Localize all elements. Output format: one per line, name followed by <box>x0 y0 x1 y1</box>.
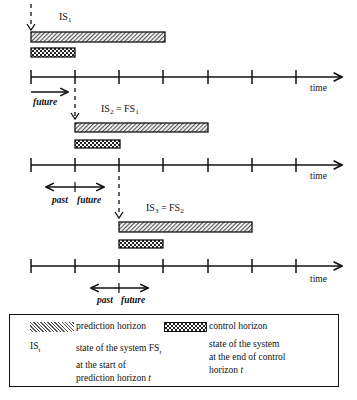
prediction-horizon-bar-1 <box>31 32 165 42</box>
state-label-1: IS1 <box>59 12 71 24</box>
down-arrow-icon <box>115 212 123 218</box>
step-3 <box>31 222 342 293</box>
time-label-1: time <box>310 84 327 94</box>
control-horizon-bar-2 <box>75 140 120 148</box>
future-label-3: future <box>121 296 145 306</box>
is-symbol: ISt <box>30 340 40 357</box>
fs-description: state of the system at the end of contro… <box>209 338 286 377</box>
past-label-2: past <box>52 196 68 206</box>
down-arrow-icon <box>27 24 35 30</box>
prediction-horizon-label: prediction horizon <box>76 320 146 333</box>
past-label-3: past <box>97 296 113 306</box>
state-label-3: IS3 = FS2 <box>146 203 184 215</box>
step-2 <box>31 123 342 192</box>
control-horizon-bar-1 <box>31 48 75 57</box>
legend-box: prediction horizon control horizon ISt s… <box>9 314 339 387</box>
prediction-horizon-bar-3 <box>119 222 252 232</box>
time-label-3: time <box>310 275 327 285</box>
future-label-1: future <box>33 98 57 108</box>
state-label-2: IS2 = FS1 <box>101 104 139 116</box>
control-horizon-label: control horizon <box>209 320 267 333</box>
prediction-horizon-swatch <box>30 322 74 332</box>
control-horizon-bar-3 <box>119 240 163 248</box>
prediction-horizon-bar-2 <box>75 123 208 132</box>
time-label-2: time <box>310 172 327 182</box>
control-horizon-swatch <box>164 322 207 332</box>
is-description: state of the system FSt at the start of … <box>76 342 161 385</box>
step-1 <box>27 4 342 92</box>
future-label-2: future <box>77 196 101 206</box>
